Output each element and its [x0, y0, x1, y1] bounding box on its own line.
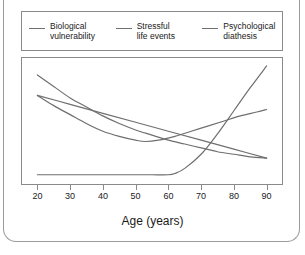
x-axis-tick [201, 185, 202, 190]
legend-line-icon [116, 28, 132, 29]
x-axis-tick-label: 80 [229, 191, 239, 201]
series-line-psychological-diathesis [37, 66, 266, 175]
x-axis-tick-label: 90 [262, 191, 272, 201]
x-axis-tick-label: 40 [98, 191, 108, 201]
x-axis-tick-label: 70 [196, 191, 206, 201]
x-axis-tick-label: 30 [65, 191, 75, 201]
chart-legend: Biological vulnerability Stressful life … [21, 11, 283, 51]
legend-item-label: Psychological diathesis [223, 21, 275, 41]
legend-line-icon [29, 28, 45, 29]
x-axis-tick [37, 185, 38, 190]
x-axis-tick [234, 185, 235, 190]
x-axis-tick [70, 185, 71, 190]
chart-figure: Biological vulnerability Stressful life … [0, 0, 305, 255]
x-axis-tick [168, 185, 169, 190]
x-axis-tick [267, 185, 268, 190]
x-axis-label: Age (years) [0, 214, 305, 228]
x-axis-tick [103, 185, 104, 190]
legend-item-stressful-life-events: Stressful life events [109, 21, 196, 41]
x-axis-tick-labels: 2030405060708090 [21, 191, 283, 203]
chart-curves [21, 57, 283, 185]
x-axis-tick-label: 20 [32, 191, 42, 201]
x-axis-tick-label: 60 [163, 191, 173, 201]
legend-line-icon [202, 28, 218, 29]
legend-item-label: Biological vulnerability [50, 21, 95, 41]
series-line-stressful-life-events [37, 95, 266, 158]
legend-item-label: Stressful life events [137, 21, 175, 41]
legend-item-psychological-diathesis: Psychological diathesis [195, 21, 282, 41]
legend-item-biological-vulnerability: Biological vulnerability [22, 21, 109, 41]
series-line-biological-vulnerability [37, 75, 266, 158]
x-axis-tick [136, 185, 137, 190]
x-axis-tick-label: 50 [131, 191, 141, 201]
